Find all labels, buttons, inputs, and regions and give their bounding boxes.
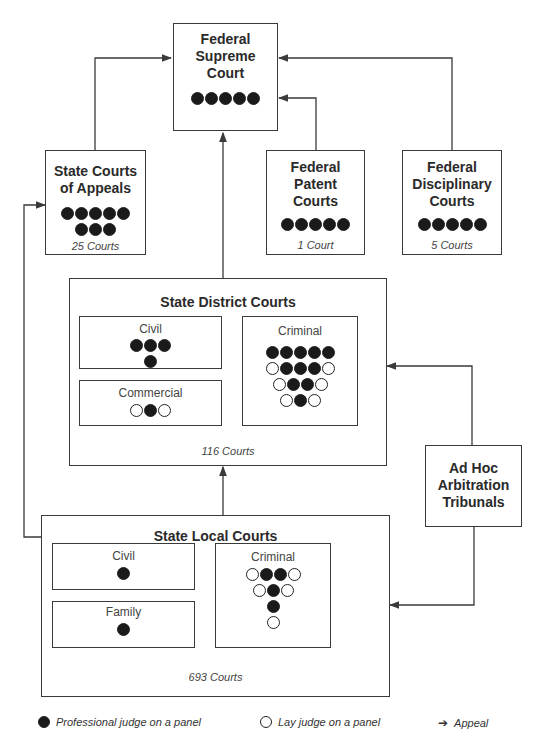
- professional-judge-icon: [130, 339, 143, 352]
- local-criminal-box: Criminal: [215, 543, 331, 648]
- lay-judge-icon: [308, 394, 321, 407]
- local-family-box: Family: [52, 601, 195, 648]
- professional-judge-icon: [301, 378, 314, 391]
- court-count: 25 Courts: [46, 240, 145, 252]
- judge-panel: [216, 568, 330, 629]
- professional-judge-icon: [294, 394, 307, 407]
- lay-judge-icon: [280, 394, 293, 407]
- judge-row: [80, 355, 221, 368]
- professional-judge-icon: [219, 92, 232, 105]
- professional-judge-icon: [287, 378, 300, 391]
- judge-panel: [80, 339, 221, 368]
- state-district-courts-box: State District Courts Civil Commercial C…: [69, 278, 387, 466]
- court-count: 1 Court: [267, 239, 364, 251]
- professional-judge-icon: [61, 207, 74, 220]
- judge-row: [80, 339, 221, 352]
- district-commercial-box: Commercial: [79, 380, 222, 426]
- district-criminal-box: Criminal: [242, 316, 358, 426]
- professional-judge-icon: [75, 223, 88, 236]
- professional-judge-icon: [274, 568, 287, 581]
- ad-hoc-arbitration-tribunals-box: Ad Hoc Arbitration Tribunals: [425, 445, 522, 527]
- professional-judge-icon: [247, 92, 260, 105]
- professional-judge-icon: [280, 346, 293, 359]
- local-civil-box: Civil: [52, 543, 195, 590]
- lay-judge-icon: [322, 362, 335, 375]
- state-courts-of-appeals-box: State Courts of Appeals 25 Courts: [45, 150, 146, 255]
- legend-appeal: ➔ Appeal: [438, 716, 488, 730]
- professional-judge-icon: [322, 346, 335, 359]
- judge-panel: [53, 567, 194, 580]
- lay-judge-icon: [253, 584, 266, 597]
- federal-supreme-court-box: Federal Supreme Court: [173, 23, 278, 131]
- lay-judge-icon: [246, 568, 259, 581]
- professional-judge-icon: [294, 362, 307, 375]
- professional-judge-icon: [432, 218, 445, 231]
- court-count: 693 Courts: [42, 671, 389, 683]
- judge-panel: [53, 623, 194, 636]
- state-local-courts-box: State Local Courts Civil Family Criminal…: [41, 515, 390, 697]
- professional-judge-icon: [323, 218, 336, 231]
- judge-panel: [174, 92, 277, 105]
- professional-judge-icon: [337, 218, 350, 231]
- professional-judge-icon: [267, 584, 280, 597]
- lay-judge-icon: [260, 716, 272, 728]
- judge-row: [243, 362, 357, 375]
- professional-judge-icon: [281, 218, 294, 231]
- appeal-arrow-icon: ➔: [438, 716, 448, 730]
- judge-panel: [46, 207, 145, 236]
- judge-row: [46, 207, 145, 220]
- professional-judge-icon: [309, 218, 322, 231]
- professional-judge-icon: [205, 92, 218, 105]
- judge-row: [46, 223, 145, 236]
- patent-title: Federal Patent Courts: [267, 159, 364, 210]
- professional-judge-icon: [280, 362, 293, 375]
- disciplinary-title: Federal Disciplinary Courts: [403, 159, 501, 210]
- judge-panel: [267, 218, 364, 231]
- professional-judge-icon: [117, 623, 130, 636]
- lay-judge-icon: [267, 616, 280, 629]
- professional-judge-icon: [75, 207, 88, 220]
- professional-judge-icon: [191, 92, 204, 105]
- judge-row: [53, 623, 194, 636]
- professional-judge-icon: [267, 600, 280, 613]
- federal-patent-courts-box: Federal Patent Courts 1 Court: [266, 150, 365, 255]
- professional-judge-icon: [38, 716, 50, 728]
- professional-judge-icon: [103, 223, 116, 236]
- judge-row: [53, 567, 194, 580]
- lay-judge-icon: [130, 404, 143, 417]
- judge-row: [243, 346, 357, 359]
- appeals-title: State Courts of Appeals: [46, 163, 145, 197]
- professional-judge-icon: [260, 568, 273, 581]
- judge-row: [216, 600, 330, 613]
- professional-judge-icon: [144, 339, 157, 352]
- supreme-title: Federal Supreme Court: [174, 31, 277, 82]
- federal-disciplinary-courts-box: Federal Disciplinary Courts 5 Courts: [402, 150, 502, 255]
- judge-row: [80, 404, 221, 417]
- district-title: State District Courts: [70, 294, 386, 311]
- professional-judge-icon: [446, 218, 459, 231]
- district-civil-box: Civil: [79, 316, 222, 369]
- professional-judge-icon: [117, 567, 130, 580]
- professional-judge-icon: [308, 346, 321, 359]
- lay-judge-icon: [158, 404, 171, 417]
- judge-panel: [243, 346, 357, 407]
- professional-judge-icon: [418, 218, 431, 231]
- judge-panel: [80, 404, 221, 417]
- lay-judge-icon: [266, 362, 279, 375]
- professional-judge-icon: [144, 404, 157, 417]
- arbitration-title: Ad Hoc Arbitration Tribunals: [426, 460, 521, 511]
- judge-row: [243, 394, 357, 407]
- professional-judge-icon: [295, 218, 308, 231]
- professional-judge-icon: [308, 362, 321, 375]
- lay-judge-icon: [288, 568, 301, 581]
- professional-judge-icon: [144, 355, 157, 368]
- professional-judge-icon: [103, 207, 116, 220]
- lay-judge-icon: [273, 378, 286, 391]
- professional-judge-icon: [233, 92, 246, 105]
- legend-lay: Lay judge on a panel: [260, 716, 380, 728]
- court-count: 5 Courts: [403, 239, 501, 251]
- professional-judge-icon: [266, 346, 279, 359]
- professional-judge-icon: [474, 218, 487, 231]
- professional-judge-icon: [294, 346, 307, 359]
- professional-judge-icon: [158, 339, 171, 352]
